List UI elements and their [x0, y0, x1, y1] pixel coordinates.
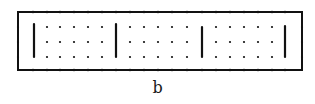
edge-tick — [301, 56, 303, 58]
grid-dot — [229, 56, 231, 58]
edge-tick — [17, 26, 19, 28]
grid-dot — [46, 26, 48, 28]
edge-tick — [73, 11, 76, 14]
figure-caption: b — [0, 78, 315, 97]
grid-dot — [271, 26, 273, 28]
edge-tick — [73, 69, 76, 72]
grid-dot — [143, 56, 145, 58]
edge-tick — [17, 41, 19, 43]
grid-dot — [186, 41, 188, 43]
grid-dot — [101, 26, 103, 28]
grid-dot — [171, 56, 173, 58]
grid-dot — [129, 56, 131, 58]
edge-tick — [301, 41, 303, 43]
grid-dot — [229, 41, 231, 43]
grid-dot — [87, 56, 89, 58]
grid-dot — [129, 26, 131, 28]
edge-tick — [284, 69, 287, 72]
edge-tick — [257, 69, 260, 72]
grid-dot — [186, 26, 188, 28]
dot-grid — [46, 26, 273, 58]
edge-tick — [229, 11, 232, 14]
grid-dot — [87, 26, 89, 28]
grid-dot — [243, 26, 245, 28]
edge-tick — [59, 69, 62, 72]
edge-tick — [101, 11, 104, 14]
edge-tick — [271, 69, 274, 72]
grid-dot — [215, 41, 217, 43]
edge-tick — [186, 69, 189, 72]
edge-tick — [101, 69, 104, 72]
grid-dot — [46, 56, 48, 58]
edge-tick — [284, 11, 287, 14]
edge-tick — [201, 69, 204, 72]
edge-tick — [257, 11, 260, 14]
edge-tick — [271, 11, 274, 14]
grid-dot — [271, 56, 273, 58]
grid-dot — [157, 56, 159, 58]
grid-dot — [59, 56, 61, 58]
edge-tick — [171, 69, 174, 72]
edge-tick — [32, 11, 35, 14]
edge-tick — [46, 69, 49, 72]
grid-dot — [73, 41, 75, 43]
grid-dot — [73, 26, 75, 28]
grid-dot — [229, 26, 231, 28]
edge-tick — [46, 11, 49, 14]
edge-tick — [243, 69, 246, 72]
edge-tick — [301, 26, 303, 28]
grid-dot — [157, 41, 159, 43]
grid-dot — [243, 41, 245, 43]
grid-dot — [243, 56, 245, 58]
edge-tick — [171, 11, 174, 14]
edge-tick — [157, 69, 160, 72]
edge-tick — [129, 69, 132, 72]
grid-dot — [257, 26, 259, 28]
edge-tick — [87, 69, 90, 72]
edge-tick — [243, 11, 246, 14]
edge-tick — [115, 69, 118, 72]
grid-dot — [215, 26, 217, 28]
edge-tick — [229, 69, 232, 72]
grid-dot — [59, 41, 61, 43]
grid-dot — [129, 41, 131, 43]
grid-dot — [157, 26, 159, 28]
edge-tick — [32, 69, 35, 72]
edge-tick — [129, 11, 132, 14]
edge-tick — [143, 69, 146, 72]
grid-dot — [186, 56, 188, 58]
grid-dot — [143, 26, 145, 28]
vertical-bars — [34, 24, 285, 57]
edge-tick — [87, 11, 90, 14]
grid-dot — [257, 56, 259, 58]
grid-dot — [271, 41, 273, 43]
grid-dot — [101, 41, 103, 43]
edge-tick — [143, 11, 146, 14]
grid-dot — [257, 41, 259, 43]
edge-tick — [157, 11, 160, 14]
edge-tick — [59, 11, 62, 14]
grid-dot — [46, 41, 48, 43]
diagram-frame — [18, 12, 302, 70]
grid-dot — [143, 41, 145, 43]
grid-dot — [87, 41, 89, 43]
edge-tick — [201, 11, 204, 14]
grid-dot — [171, 41, 173, 43]
grid-dot — [73, 56, 75, 58]
grid-dot — [215, 56, 217, 58]
edge-tick — [186, 11, 189, 14]
edge-tick — [215, 69, 218, 72]
edge-tick — [115, 11, 118, 14]
grid-dot — [101, 56, 103, 58]
grid-dot — [171, 26, 173, 28]
edge-tick — [215, 11, 218, 14]
edge-tick — [17, 56, 19, 58]
grid-dot — [59, 26, 61, 28]
